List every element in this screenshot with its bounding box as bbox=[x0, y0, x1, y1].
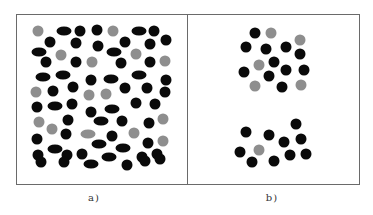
black-circle-particle bbox=[68, 82, 79, 93]
panel-a-particles bbox=[31, 25, 172, 171]
gray-circle-particle bbox=[33, 26, 44, 37]
black-circle-particle bbox=[160, 87, 171, 98]
black-circle-particle bbox=[247, 157, 258, 168]
gray-circle-particle bbox=[34, 117, 45, 128]
black-circle-particle bbox=[149, 26, 160, 37]
black-ellipse-particle bbox=[105, 105, 120, 114]
black-ellipse-particle bbox=[32, 48, 47, 57]
black-ellipse-particle bbox=[104, 75, 119, 84]
black-circle-particle bbox=[269, 156, 280, 167]
black-circle-particle bbox=[63, 115, 74, 126]
black-circle-particle bbox=[285, 150, 296, 161]
black-circle-particle bbox=[269, 57, 280, 68]
black-circle-particle bbox=[235, 147, 246, 158]
black-circle-particle bbox=[32, 102, 43, 113]
black-circle-particle bbox=[261, 44, 272, 55]
panel-b-particles bbox=[235, 28, 312, 168]
black-circle-particle bbox=[122, 160, 133, 171]
black-circle-particle bbox=[161, 75, 172, 86]
black-circle-particle bbox=[143, 138, 154, 149]
gray-circle-particle bbox=[31, 87, 42, 98]
black-circle-particle bbox=[59, 157, 70, 168]
black-circle-particle bbox=[155, 154, 166, 165]
black-ellipse-particle bbox=[56, 71, 71, 80]
gray-circle-particle bbox=[250, 81, 261, 92]
black-circle-particle bbox=[161, 35, 172, 46]
gray-circle-particle bbox=[131, 49, 142, 60]
gray-circle-particle bbox=[47, 124, 58, 135]
gray-circle-particle bbox=[101, 89, 112, 100]
black-circle-particle bbox=[71, 57, 82, 68]
gray-circle-particle bbox=[84, 90, 95, 101]
gray-circle-particle bbox=[158, 114, 169, 125]
figure: a) b) bbox=[0, 0, 373, 215]
black-circle-particle bbox=[140, 156, 151, 167]
black-circle-particle bbox=[41, 57, 52, 68]
black-circle-particle bbox=[241, 42, 252, 53]
black-circle-particle bbox=[281, 65, 292, 76]
black-circle-particle bbox=[277, 82, 288, 93]
black-circle-particle bbox=[142, 83, 153, 94]
black-circle-particle bbox=[32, 134, 43, 145]
black-circle-particle bbox=[61, 129, 72, 140]
gray-circle-particle bbox=[158, 136, 169, 147]
black-circle-particle bbox=[301, 149, 312, 160]
black-circle-particle bbox=[241, 127, 252, 138]
black-circle-particle bbox=[67, 99, 78, 110]
gray-circle-particle bbox=[254, 145, 265, 156]
black-circle-particle bbox=[77, 149, 88, 160]
black-circle-particle bbox=[107, 131, 118, 142]
black-circle-particle bbox=[281, 42, 292, 53]
black-circle-particle bbox=[250, 28, 261, 39]
black-circle-particle bbox=[239, 67, 250, 78]
gray-circle-particle bbox=[266, 28, 277, 39]
particle-canvas bbox=[0, 0, 373, 215]
gray-circle-particle bbox=[108, 26, 119, 37]
gray-ellipse-particle bbox=[81, 130, 96, 139]
gray-circle-particle bbox=[296, 80, 307, 91]
black-circle-particle bbox=[120, 37, 131, 48]
black-circle-particle bbox=[92, 25, 103, 36]
black-circle-particle bbox=[145, 57, 156, 68]
black-ellipse-particle bbox=[84, 160, 99, 169]
black-circle-particle bbox=[144, 118, 155, 129]
black-circle-particle bbox=[36, 157, 47, 168]
black-circle-particle bbox=[93, 41, 104, 52]
black-circle-particle bbox=[48, 86, 59, 97]
black-ellipse-particle bbox=[132, 27, 147, 36]
gray-circle-particle bbox=[87, 57, 98, 68]
black-circle-particle bbox=[291, 119, 302, 130]
black-circle-particle bbox=[86, 107, 97, 118]
black-circle-particle bbox=[150, 99, 161, 110]
black-ellipse-particle bbox=[48, 102, 63, 111]
black-ellipse-particle bbox=[92, 140, 107, 149]
gray-circle-particle bbox=[129, 128, 140, 139]
black-circle-particle bbox=[120, 83, 131, 94]
black-ellipse-particle bbox=[57, 27, 72, 36]
gray-circle-particle bbox=[160, 56, 171, 67]
gray-circle-particle bbox=[56, 50, 67, 61]
black-circle-particle bbox=[45, 37, 56, 48]
black-circle-particle bbox=[75, 26, 86, 37]
black-ellipse-particle bbox=[48, 145, 63, 154]
black-circle-particle bbox=[299, 65, 310, 76]
black-ellipse-particle bbox=[132, 71, 147, 80]
black-ellipse-particle bbox=[94, 117, 109, 126]
black-ellipse-particle bbox=[107, 48, 122, 57]
black-circle-particle bbox=[71, 38, 82, 49]
black-ellipse-particle bbox=[36, 73, 51, 82]
black-circle-particle bbox=[116, 58, 127, 69]
black-circle-particle bbox=[131, 98, 142, 109]
gray-circle-particle bbox=[295, 35, 306, 46]
gray-circle-particle bbox=[254, 60, 265, 71]
black-ellipse-particle bbox=[116, 144, 131, 153]
panel-a-caption: a) bbox=[84, 192, 104, 203]
black-circle-particle bbox=[295, 49, 306, 60]
black-circle-particle bbox=[264, 130, 275, 141]
black-circle-particle bbox=[145, 39, 156, 50]
black-ellipse-particle bbox=[102, 153, 117, 162]
black-circle-particle bbox=[279, 137, 290, 148]
panel-b-caption: b) bbox=[262, 192, 282, 203]
black-circle-particle bbox=[86, 75, 97, 86]
black-circle-particle bbox=[264, 71, 275, 82]
